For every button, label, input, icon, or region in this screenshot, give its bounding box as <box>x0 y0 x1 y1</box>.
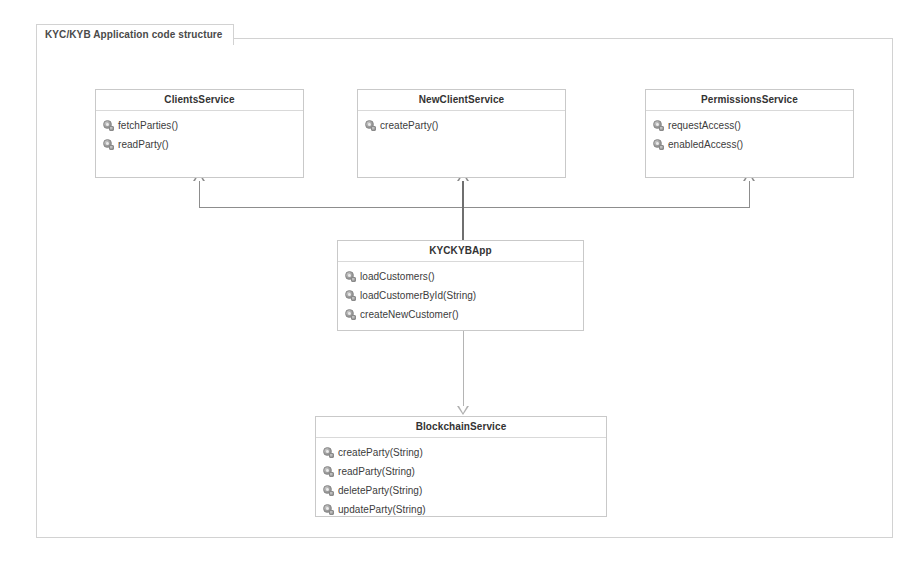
generalization-bus-line <box>199 207 750 208</box>
method-icon <box>365 120 376 131</box>
method-icon <box>345 309 356 320</box>
method-label: createParty() <box>380 120 438 131</box>
method-row[interactable]: createNewCustomer() <box>338 305 583 324</box>
method-label: fetchParties() <box>118 120 178 131</box>
method-row[interactable]: createParty(String) <box>316 443 606 462</box>
method-icon <box>653 120 664 131</box>
method-row[interactable]: loadCustomers() <box>338 267 583 286</box>
method-row[interactable]: enabledAccess() <box>646 135 853 154</box>
class-box-new-client-service[interactable]: NewClientService createParty() <box>357 89 566 178</box>
method-icon <box>103 120 114 131</box>
generalization-arrowhead-blockchain-service <box>457 406 469 415</box>
method-icon <box>345 271 356 282</box>
method-label: createNewCustomer() <box>360 309 459 320</box>
method-label: requestAccess() <box>668 120 741 131</box>
method-row[interactable]: loadCustomerById(String) <box>338 286 583 305</box>
method-icon <box>323 466 334 477</box>
generalization-riser-blockchain-service <box>463 331 464 409</box>
class-name-blockchain-service: BlockchainService <box>316 417 606 438</box>
class-members-permissions-service: requestAccess() enabledAccess() <box>646 111 853 154</box>
method-label: readParty() <box>118 139 169 150</box>
method-icon <box>323 504 334 515</box>
generalization-riser-clients-service <box>199 181 200 208</box>
class-name-kyckybapp: KYCKYBApp <box>338 241 583 262</box>
method-row[interactable]: readParty(String) <box>316 462 606 481</box>
method-row[interactable]: deleteParty(String) <box>316 481 606 500</box>
method-label: loadCustomers() <box>360 271 435 282</box>
method-icon <box>103 139 114 150</box>
method-label: createParty(String) <box>338 447 423 458</box>
class-box-permissions-service[interactable]: PermissionsService requestAccess() enabl… <box>645 89 854 178</box>
frame-tab-label: KYC/KYB Application code structure <box>36 24 234 45</box>
method-label: updateParty(String) <box>338 504 426 515</box>
class-members-kyckybapp: loadCustomers() loadCustomerById(String)… <box>338 262 583 324</box>
generalization-riser-new-client-service <box>462 181 464 241</box>
class-members-new-client-service: createParty() <box>358 111 565 135</box>
uml-class-diagram-canvas: KYC/KYB Application code structure Clien… <box>0 0 910 570</box>
method-icon <box>323 447 334 458</box>
class-box-kyckybapp[interactable]: KYCKYBApp loadCustomers() loadCustomerBy… <box>337 240 584 331</box>
class-members-blockchain-service: createParty(String) readParty(String) de… <box>316 438 606 519</box>
generalization-riser-permissions-service <box>749 181 750 208</box>
class-name-clients-service: ClientsService <box>96 90 303 111</box>
method-row[interactable]: readParty() <box>96 135 303 154</box>
class-box-blockchain-service[interactable]: BlockchainService createParty(String) re… <box>315 416 607 517</box>
class-box-clients-service[interactable]: ClientsService fetchParties() readParty(… <box>95 89 304 178</box>
method-row[interactable]: createParty() <box>358 116 565 135</box>
method-icon <box>345 290 356 301</box>
method-row[interactable]: updateParty(String) <box>316 500 606 519</box>
method-icon <box>323 485 334 496</box>
class-name-permissions-service: PermissionsService <box>646 90 853 111</box>
class-name-new-client-service: NewClientService <box>358 90 565 111</box>
method-label: loadCustomerById(String) <box>360 290 476 301</box>
method-label: readParty(String) <box>338 466 415 477</box>
method-label: deleteParty(String) <box>338 485 422 496</box>
method-label: enabledAccess() <box>668 139 743 150</box>
method-icon <box>653 139 664 150</box>
method-row[interactable]: requestAccess() <box>646 116 853 135</box>
method-row[interactable]: fetchParties() <box>96 116 303 135</box>
class-members-clients-service: fetchParties() readParty() <box>96 111 303 154</box>
